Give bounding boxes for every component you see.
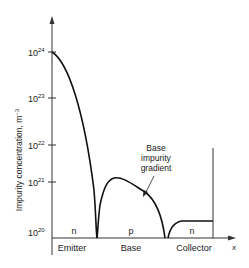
svg-text:Base: Base (121, 243, 142, 253)
svg-text:Collector: Collector (176, 243, 212, 253)
svg-text:n: n (189, 226, 194, 236)
annotation-label: Base impurity gradient (141, 143, 172, 173)
region-types: n p n (71, 226, 194, 236)
svg-text:1021: 1021 (28, 177, 45, 188)
x-axis-arrow-icon (228, 236, 236, 241)
svg-text:p: p (128, 226, 133, 236)
y-axis-arrow-icon (50, 16, 55, 24)
region-names: Emitter Base Collector (58, 243, 212, 253)
y-axis-label: Impurity concentration, m−3 (14, 108, 24, 211)
svg-text:1024: 1024 (28, 47, 45, 58)
svg-text:1020: 1020 (28, 227, 45, 238)
y-tick-labels: 1024 1023 1022 1021 1020 (28, 47, 45, 238)
svg-text:Emitter: Emitter (58, 243, 87, 253)
svg-text:Base: Base (146, 143, 166, 153)
svg-text:1022: 1022 (28, 140, 45, 151)
svg-text:n: n (71, 226, 76, 236)
impurity-profile-diagram: 1024 1023 1022 1021 1020 Impurity concen… (0, 0, 249, 268)
svg-text:1023: 1023 (28, 93, 45, 104)
svg-text:gradient: gradient (141, 163, 172, 173)
svg-text:impurity: impurity (141, 153, 172, 163)
impurity-curve (52, 52, 213, 238)
x-axis-label: x (231, 243, 237, 252)
